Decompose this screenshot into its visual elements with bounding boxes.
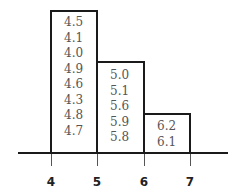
tick-label-5: 5	[87, 175, 107, 189]
bar-5-6-values: 5.0 5.1 5.6 5.9 5.8	[98, 68, 143, 146]
tick-7	[190, 154, 191, 166]
tick-6	[144, 154, 145, 166]
bar-6-7-values: 6.2 6.1	[145, 119, 189, 150]
value: 4.8	[64, 108, 96, 124]
tick-label-4: 4	[41, 175, 61, 189]
value: 4.9	[64, 62, 96, 78]
value: 4.1	[64, 31, 96, 47]
value: 5.9	[110, 115, 143, 131]
value: 4.0	[64, 46, 96, 62]
tick-5	[97, 154, 98, 166]
bar-4-5: 4.5 4.1 4.0 4.9 4.6 4.3 4.8 4.7	[50, 10, 98, 154]
value: 5.1	[110, 84, 143, 100]
x-axis	[18, 152, 228, 154]
value: 4.7	[64, 124, 96, 140]
value: 4.6	[64, 77, 96, 93]
value: 4.3	[64, 93, 96, 109]
value: 5.0	[110, 68, 143, 84]
bar-6-7: 6.2 6.1	[143, 113, 191, 154]
value: 6.1	[157, 135, 189, 151]
bar-4-5-values: 4.5 4.1 4.0 4.9 4.6 4.3 4.8 4.7	[52, 15, 96, 139]
value: 5.6	[110, 99, 143, 115]
value: 6.2	[157, 119, 189, 135]
bar-5-6: 5.0 5.1 5.6 5.9 5.8	[96, 61, 145, 154]
tick-label-7: 7	[180, 175, 200, 189]
tick-label-6: 6	[134, 175, 154, 189]
tick-4	[51, 154, 52, 166]
value: 4.5	[64, 15, 96, 31]
value: 5.8	[110, 130, 143, 146]
